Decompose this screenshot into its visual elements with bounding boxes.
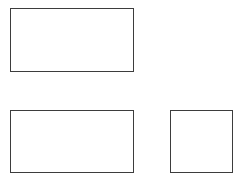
rectangle-top-left[interactable] — [10, 8, 134, 72]
rectangle-bottom-left[interactable] — [10, 110, 134, 173]
square-bottom-right[interactable] — [170, 110, 233, 173]
diagram-canvas — [0, 0, 240, 180]
